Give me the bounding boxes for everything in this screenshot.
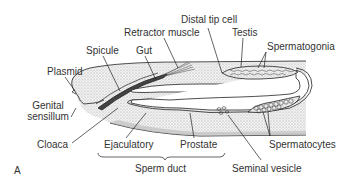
label-plasmid: Plasmid (47, 66, 83, 77)
nematode-male-tail-diagram: Plasmid Spicule Gut Retractor muscle Dis… (0, 0, 356, 192)
label-sperm-duct: Sperm duct (135, 163, 186, 174)
label-spicule: Spicule (86, 45, 119, 56)
label-prostate: Prostate (180, 139, 217, 150)
label-seminal-vesicle: Seminal vesicle (232, 163, 301, 174)
label-gut: Gut (136, 45, 152, 56)
label-sensillum: sensillum (20, 111, 76, 122)
label-spermatocytes: Spermatocytes (269, 139, 336, 150)
label-cloaca: Cloaca (37, 139, 68, 150)
sperm-duct-brace (98, 153, 225, 160)
label-distal-tip-cell: Distal tip cell (181, 14, 237, 25)
label-ejaculatory: Ejaculatory (104, 139, 153, 150)
label-spermatogonia: Spermatogonia (267, 41, 335, 52)
panel-letter: A (14, 165, 21, 176)
label-testis: Testis (232, 27, 258, 38)
label-retractor-muscle: Retractor muscle (124, 27, 200, 38)
label-genital: Genital (20, 100, 76, 111)
